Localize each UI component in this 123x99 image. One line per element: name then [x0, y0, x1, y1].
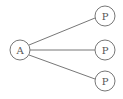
edge-a-p1 — [29, 18, 95, 45]
node-a-label: A — [15, 45, 24, 56]
edge-a-p3 — [29, 55, 95, 79]
node-p1-label: P — [102, 11, 109, 22]
tree-diagram: A P P P — [0, 0, 123, 99]
node-p2-label: P — [102, 45, 109, 56]
diagram: A P P P — [0, 0, 123, 99]
node-p3-label: P — [102, 76, 109, 87]
